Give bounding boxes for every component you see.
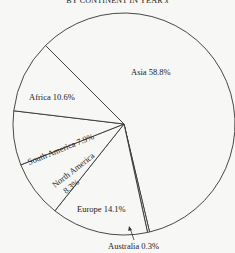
pie-chart: Asia 58.8% Africa 10.6% South America 7.… xyxy=(0,0,235,253)
label-europe: Europe 14.1% xyxy=(77,204,126,214)
label-africa: Africa 10.6% xyxy=(29,92,75,102)
label-australia: Australia 0.3% xyxy=(108,241,159,251)
pie-slices xyxy=(13,13,235,235)
label-asia: Asia 58.8% xyxy=(131,67,171,77)
